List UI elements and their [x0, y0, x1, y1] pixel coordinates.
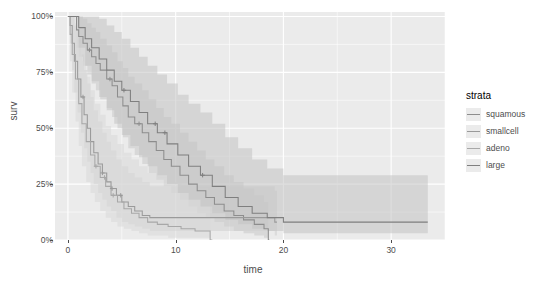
x-axis-title: time	[60, 264, 446, 275]
legend-item-label: squamous	[486, 109, 525, 119]
legend-key-swatch	[466, 125, 481, 138]
x-tick-label: 0	[48, 245, 88, 255]
legend-key-swatch	[466, 159, 481, 172]
y-tick-mark	[50, 128, 53, 129]
legend-item-large[interactable]: large	[466, 158, 540, 172]
y-tick-mark	[50, 240, 53, 241]
y-tick-label: 0%	[13, 235, 53, 245]
legend-item-label: smallcell	[486, 126, 519, 136]
legend-item-squamous[interactable]: squamous	[466, 107, 540, 121]
x-tick-mark	[68, 240, 69, 243]
survival-plot-figure: surv 0%25%50%75%100% 0102030 time strata…	[0, 0, 544, 288]
legend-key-swatch	[466, 142, 481, 155]
legend-item-smallcell[interactable]: smallcell	[466, 124, 540, 138]
x-tick-label: 30	[371, 245, 411, 255]
y-tick-mark	[50, 72, 53, 73]
y-tick-label: 100%	[13, 11, 53, 21]
x-tick-mark	[283, 240, 284, 243]
y-tick-label: 50%	[13, 123, 53, 133]
legend-key-swatch	[466, 108, 481, 121]
legend: strata squamoussmallcelladenolarge	[466, 90, 540, 175]
x-axis-tick-labels: 0102030	[0, 245, 544, 261]
x-tick-mark	[176, 240, 177, 243]
legend-item-label: adeno	[486, 143, 510, 153]
x-tick-mark	[391, 240, 392, 243]
x-tick-label: 20	[263, 245, 303, 255]
legend-title: strata	[466, 90, 540, 101]
y-tick-mark	[50, 184, 53, 185]
legend-item-adeno[interactable]: adeno	[466, 141, 540, 155]
survival-curves-svg	[55, 12, 445, 240]
y-tick-label: 25%	[13, 179, 53, 189]
plot-panel	[55, 12, 445, 240]
y-tick-mark	[50, 16, 53, 17]
y-tick-label: 75%	[13, 67, 53, 77]
legend-items: squamoussmallcelladenolarge	[466, 107, 540, 172]
legend-item-label: large	[486, 160, 505, 170]
x-tick-label: 10	[156, 245, 196, 255]
